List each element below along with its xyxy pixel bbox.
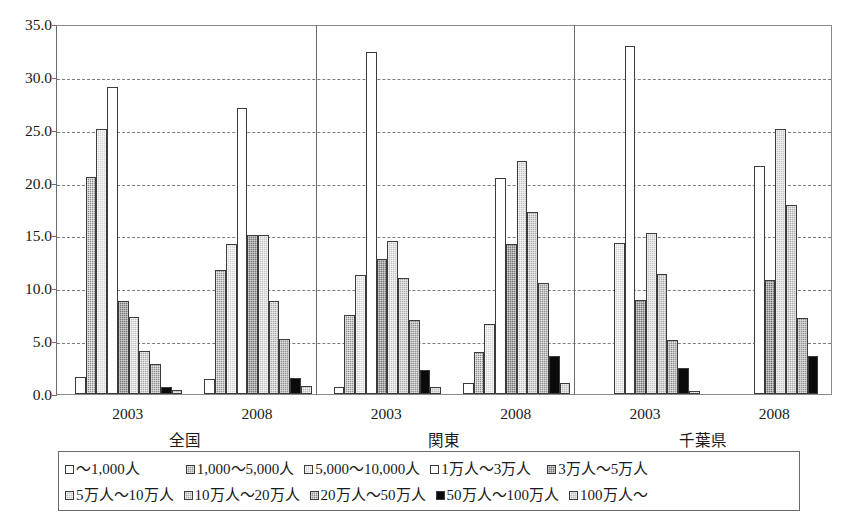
bar — [506, 244, 517, 394]
y-axis: 0.05.010.015.020.025.030.035.0 — [0, 25, 52, 395]
legend-item[interactable]: 3万人～5万人 — [547, 462, 648, 477]
legend-item[interactable]: 20万人～50万人 — [310, 488, 426, 503]
legend-item[interactable]: 1,000～5,000人 — [186, 462, 295, 477]
legend-row: ～1,000人1,000～5,000人5,000～10,000人1万人～3万人3… — [65, 456, 793, 482]
legend-item[interactable]: ～1,000人 — [65, 462, 140, 477]
bar — [560, 383, 571, 394]
x-axis-tick-label: 2003 — [605, 406, 685, 422]
bar — [678, 368, 689, 394]
bar — [355, 275, 366, 394]
bar — [377, 259, 388, 394]
x-axis-group-label: 全国 — [125, 433, 245, 449]
bar — [150, 364, 161, 394]
bar — [538, 283, 549, 394]
bar — [398, 278, 409, 394]
legend-item-label: 5,000～10,000人 — [315, 462, 420, 477]
legend-item[interactable]: 5万人～10万人 — [65, 488, 174, 503]
bar — [118, 301, 129, 394]
legend-item[interactable]: 100万人～ — [569, 488, 648, 503]
legend-swatch-icon — [304, 465, 313, 474]
x-axis-tick-label: 2008 — [217, 406, 297, 422]
bar — [420, 370, 431, 394]
x-axis-tick-label: 2003 — [88, 406, 168, 422]
bar — [237, 108, 248, 394]
bar — [625, 46, 636, 394]
legend-swatch-icon — [430, 465, 439, 474]
bar — [226, 244, 237, 394]
legend-item[interactable]: 10万人～20万人 — [184, 488, 300, 503]
legend-swatch-icon — [65, 491, 74, 500]
legend-swatch-icon — [184, 491, 193, 500]
legend-swatch-icon — [436, 491, 445, 500]
bar — [290, 378, 301, 394]
bar — [172, 390, 183, 394]
legend-swatch-icon — [186, 465, 195, 474]
bar — [786, 205, 797, 394]
bar — [86, 177, 97, 394]
legend-swatch-icon — [310, 491, 319, 500]
bar — [269, 301, 280, 394]
bar — [754, 166, 765, 394]
legend-item-label: 50万人～100万人 — [447, 488, 560, 503]
bar — [204, 379, 215, 394]
y-axis-tick-label: 15.0 — [4, 228, 52, 244]
bar — [279, 339, 290, 394]
chart-legend: ～1,000人1,000～5,000人5,000～10,000人1万人～3万人3… — [58, 451, 800, 511]
bar — [129, 317, 140, 394]
bar — [517, 161, 528, 394]
legend-item-label: ～1,000人 — [76, 462, 140, 477]
bar — [161, 387, 172, 394]
bar — [215, 270, 226, 394]
bar — [96, 129, 107, 394]
x-axis-tick-label: 2008 — [476, 406, 556, 422]
y-axis-tick-label: 10.0 — [4, 281, 52, 297]
bar — [334, 387, 345, 394]
legend-item[interactable]: 5,000～10,000人 — [304, 462, 420, 477]
bar — [258, 235, 269, 394]
bar — [495, 178, 506, 394]
bar — [808, 356, 819, 394]
x-axis-group-label: 関東 — [384, 433, 504, 449]
bar — [635, 300, 646, 394]
legend-swatch-icon — [65, 465, 74, 474]
y-axis-tick-mark — [52, 395, 57, 396]
legend-swatch-icon — [547, 465, 556, 474]
legend-item-label: 10万人～20万人 — [195, 488, 300, 503]
bar — [689, 391, 700, 394]
bar — [387, 241, 398, 394]
bar — [366, 52, 377, 395]
bar — [614, 243, 625, 394]
legend-item-label: 1,000～5,000人 — [197, 462, 295, 477]
bar — [344, 315, 355, 394]
bar — [775, 129, 786, 394]
y-axis-tick-label: 35.0 — [4, 17, 52, 33]
bar — [301, 386, 312, 394]
legend-item[interactable]: 50万人～100万人 — [436, 488, 560, 503]
y-axis-tick-label: 0.0 — [4, 387, 52, 403]
bar — [409, 320, 420, 394]
bars-layer — [57, 26, 831, 394]
bar — [549, 356, 560, 394]
bar — [484, 324, 495, 394]
bar — [247, 235, 258, 394]
bar — [463, 383, 474, 394]
legend-swatch-icon — [569, 491, 578, 500]
bar — [139, 351, 150, 394]
legend-item-label: 20万人～50万人 — [321, 488, 426, 503]
bar — [657, 274, 668, 395]
x-axis-tick-label: 2003 — [346, 406, 426, 422]
y-axis-tick-label: 30.0 — [4, 70, 52, 86]
bar — [75, 377, 86, 394]
plot-area — [56, 25, 832, 395]
legend-row: 5万人～10万人10万人～20万人20万人～50万人50万人～100万人100万… — [65, 482, 793, 508]
legend-item-label: 100万人～ — [580, 488, 648, 503]
bar — [107, 87, 118, 394]
bar — [430, 387, 441, 394]
bar — [667, 340, 678, 394]
legend-item[interactable]: 1万人～3万人 — [430, 462, 531, 477]
chart-root: 0.05.010.015.020.025.030.035.0 200320082… — [0, 0, 855, 525]
bar — [765, 280, 776, 394]
bar — [474, 352, 485, 394]
y-axis-tick-label: 20.0 — [4, 176, 52, 192]
bar — [797, 318, 808, 394]
